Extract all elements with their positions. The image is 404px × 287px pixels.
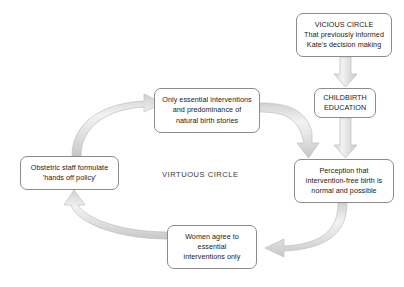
arrow-perception-to-womenagree — [265, 203, 347, 257]
node-vicious-circle-label: VICIOUS CIRCLE That previously informed … — [304, 20, 384, 51]
node-women-agree-label: Women agree to essential interventions o… — [184, 232, 241, 263]
node-childbirth-education[interactable]: CHILDBIRTH EDUCATION — [314, 88, 376, 118]
arrow-childbirth-to-perception — [334, 118, 357, 158]
node-vicious-circle[interactable]: VICIOUS CIRCLE That previously informed … — [296, 13, 392, 57]
node-obstetric-staff[interactable]: Obstetric staff formulate 'hands off pol… — [20, 156, 119, 190]
arrow-vicious-to-childbirth — [334, 57, 357, 87]
diagram-canvas: VICIOUS CIRCLE That previously informed … — [0, 0, 404, 287]
node-only-essential-interventions[interactable]: Only essential interventions and predomi… — [154, 88, 260, 133]
node-perception[interactable]: Perception that intervention-free birth … — [294, 159, 394, 203]
node-childbirth-education-label: CHILDBIRTH EDUCATION — [323, 93, 367, 113]
arrow-obstetric-to-onlyessential — [72, 94, 163, 156]
node-obstetric-staff-label: Obstetric staff formulate 'hands off pol… — [31, 163, 108, 183]
node-perception-label: Perception that intervention-free birth … — [306, 166, 382, 197]
center-label-virtuous-circle: VIRTUOUS CIRCLE — [162, 170, 239, 179]
arrow-womenagree-to-obstetric — [64, 190, 167, 239]
arrow-onlyessential-to-perception — [260, 103, 319, 158]
node-women-agree[interactable]: Women agree to essential interventions o… — [167, 225, 257, 269]
node-only-essential-interventions-label: Only essential interventions and predomi… — [162, 95, 251, 126]
